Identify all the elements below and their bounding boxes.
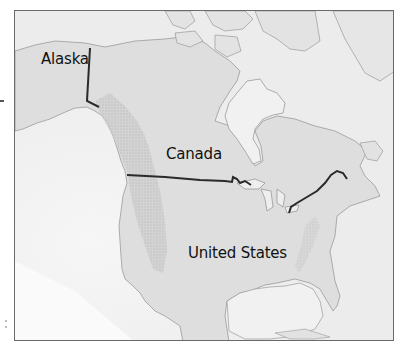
margin-dots [5,320,7,330]
margin-tick-mark [0,100,4,102]
map-frame: Alaska Canada United States [14,10,394,341]
label-alaska: Alaska [41,50,89,68]
label-canada: Canada [166,145,222,163]
label-united-states: United States [188,244,287,262]
